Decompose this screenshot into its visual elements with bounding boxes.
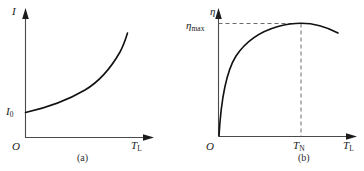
axis-label-load-torque-b-sub: L	[349, 144, 354, 153]
origin-label-a: O	[12, 141, 20, 152]
x-axis-arrow-a	[143, 134, 154, 141]
axis-label-load-torque-a: TL	[131, 140, 142, 151]
tick-label-i0-sub: 0	[10, 110, 14, 119]
plot-a-canvas	[0, 0, 182, 171]
y-axis-arrow-b	[215, 8, 222, 19]
tick-label-tn: TN	[293, 140, 305, 151]
tick-label-eta-max: ηmax	[186, 20, 204, 31]
tick-label-eta-max-sub: max	[191, 24, 204, 33]
origin-label-b: O	[206, 141, 214, 152]
caption-b: (b)	[298, 153, 310, 163]
chart-panel-b: η ηmax O TN TL (b)	[182, 0, 364, 171]
figure-container: I I0 O TL (a) η ηmax O TN TL (b)	[0, 0, 364, 171]
curve-current-vs-torque	[26, 33, 128, 113]
chart-panel-a: I I0 O TL (a)	[0, 0, 182, 171]
axis-label-efficiency: η	[210, 6, 215, 17]
axis-label-load-torque-b: TL	[343, 140, 354, 151]
caption-a: (a)	[77, 153, 88, 163]
y-axis-arrow-a	[22, 8, 29, 19]
axis-label-load-torque-a-sub: L	[137, 144, 142, 153]
tick-label-i0: I0	[6, 106, 13, 117]
curve-efficiency-vs-torque	[219, 23, 338, 136]
axis-label-current: I	[12, 6, 16, 17]
